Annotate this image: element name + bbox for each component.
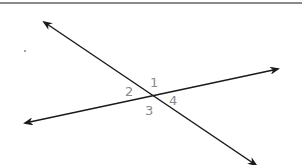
angle-label-1: 1 xyxy=(150,75,158,90)
angle-label-4: 4 xyxy=(169,93,177,108)
angle-label-2: 2 xyxy=(125,84,133,99)
intersecting-lines-diagram: 1 2 3 4 xyxy=(0,0,302,165)
line-steep xyxy=(44,22,256,165)
stray-dot xyxy=(24,50,26,52)
angle-label-3: 3 xyxy=(145,103,153,118)
